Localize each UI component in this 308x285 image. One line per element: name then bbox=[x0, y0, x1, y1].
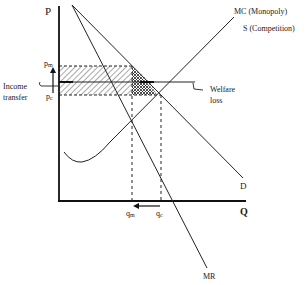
quantity-left-arrow-icon bbox=[133, 203, 139, 209]
quantity-axis-label: Q bbox=[240, 206, 248, 217]
welfare-loss-label-2: loss bbox=[210, 96, 222, 105]
demand-label: D bbox=[240, 181, 247, 191]
marginal-revenue-curve bbox=[72, 5, 207, 268]
welfare-loss-label: Welfare bbox=[210, 85, 236, 94]
monopoly-diagram: P Q D MR MC (Monopoly) S (Competition) p… bbox=[0, 0, 308, 285]
qm-label: qm bbox=[126, 209, 135, 218]
price-axis-label: P bbox=[45, 5, 51, 17]
mr-label: MR bbox=[203, 272, 216, 281]
mc-label: MC (Monopoly) bbox=[234, 7, 287, 16]
income-transfer-label-2: transfer bbox=[3, 93, 28, 102]
supply-label: S (Competition) bbox=[243, 24, 295, 33]
income-transfer-label: Income bbox=[3, 82, 27, 91]
pc-label: pc bbox=[46, 92, 53, 101]
pm-label: pm bbox=[44, 59, 53, 68]
qc-label: qc bbox=[156, 209, 163, 218]
income-transfer-area bbox=[59, 66, 132, 95]
